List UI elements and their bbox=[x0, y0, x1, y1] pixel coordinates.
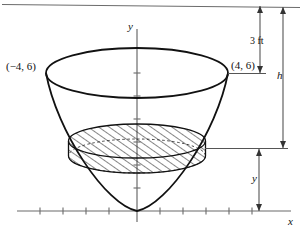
dimension-label-3ft: 3 ft bbox=[250, 36, 264, 46]
top-reference-line bbox=[2, 5, 300, 8]
axis-label-y: y bbox=[128, 21, 133, 32]
figure-container: (−4, 6) (4, 6) 3 ft h y y x bbox=[0, 0, 307, 231]
hatched-disk-slice bbox=[60, 118, 215, 180]
dimension-label-y: y bbox=[252, 173, 257, 184]
x-axis bbox=[17, 208, 291, 215]
point-label-left-rim: (−4, 6) bbox=[6, 61, 36, 72]
point-label-right-rim: (4, 6) bbox=[231, 60, 255, 71]
axis-label-x: x bbox=[288, 216, 293, 227]
dimension-label-h: h bbox=[277, 70, 283, 81]
